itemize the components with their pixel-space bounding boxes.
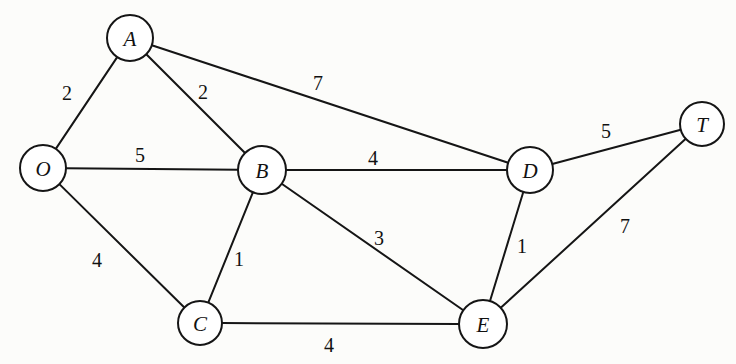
graph-canvas: 227545317414 AOBDTCE — [0, 0, 736, 364]
edge-weight-d-t: 5 — [601, 120, 611, 142]
graph-node-o: O — [20, 145, 66, 191]
edge-weight-o-b: 5 — [135, 144, 145, 166]
edge-weight-o-a: 2 — [62, 82, 72, 104]
edge-weight-o-c: 4 — [92, 249, 102, 271]
graph-edge-c-e — [222, 323, 459, 324]
node-label-b: B — [256, 159, 269, 183]
graph-diagram: 227545317414 AOBDTCE — [0, 0, 736, 364]
graph-edge-o-b — [66, 168, 238, 170]
edge-weight-b-e: 3 — [374, 227, 384, 249]
graph-edge-a-d — [152, 45, 508, 163]
node-label-t: T — [696, 113, 709, 137]
graph-node-b: B — [238, 146, 286, 194]
edge-weight-c-e: 4 — [324, 334, 334, 356]
graph-node-a: A — [107, 15, 153, 61]
graph-edge-b-c — [208, 192, 253, 302]
node-label-c: C — [193, 312, 208, 336]
graph-node-e: E — [459, 300, 507, 348]
edge-weight-e-t: 7 — [620, 215, 630, 237]
edge-weight-d-e: 1 — [517, 235, 527, 257]
graph-edge-o-c — [59, 184, 184, 307]
nodes-layer: AOBDTCE — [20, 15, 724, 348]
graph-node-t: T — [680, 102, 724, 146]
edge-weight-b-c: 1 — [234, 248, 244, 270]
edges-layer — [56, 45, 686, 324]
edge-weight-b-d: 4 — [368, 147, 378, 169]
edge-weights-layer: 227545317414 — [62, 72, 630, 356]
edge-weight-a-d: 7 — [313, 72, 323, 94]
graph-edge-b-e — [282, 184, 464, 311]
graph-edge-d-t — [552, 130, 681, 164]
node-label-a: A — [122, 27, 137, 51]
graph-node-d: D — [507, 147, 553, 193]
node-label-o: O — [35, 157, 50, 181]
edge-weight-a-b: 2 — [198, 81, 208, 103]
node-label-d: D — [521, 159, 537, 183]
graph-edge-a-b — [146, 54, 245, 153]
graph-node-c: C — [178, 301, 222, 345]
node-label-e: E — [476, 313, 490, 337]
